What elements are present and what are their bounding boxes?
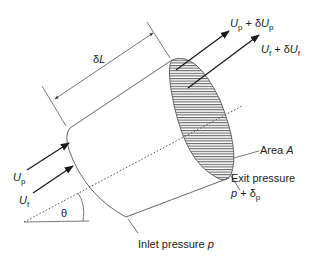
area-leader — [234, 151, 259, 158]
inlet-fluid-velocity-arrow — [33, 166, 73, 193]
inlet-fluid-velocity-label: Uf — [19, 194, 30, 209]
angle-label: θ — [61, 207, 67, 219]
exit-particle-velocity-label: Up + δUp — [230, 17, 274, 32]
length-label: δL — [93, 53, 105, 65]
exit-area-ellipse — [169, 58, 233, 179]
exit-fluid-velocity-label: Uf + δUf — [261, 43, 301, 58]
angle-indicator — [24, 193, 89, 222]
inlet-pressure-label: Inlet pressure p — [138, 238, 214, 250]
area-label: Area A — [260, 144, 294, 156]
inlet-particle-velocity-label: Up — [13, 171, 26, 186]
exit-fluid-velocity-arrow — [188, 35, 259, 88]
inlet-pressure-leader — [128, 219, 138, 233]
exit-pressure-value: p + δp — [230, 187, 261, 202]
inlet-particle-velocity-arrow — [27, 143, 69, 170]
exit-particle-velocity-arrow — [176, 31, 229, 70]
exit-pressure-title: Exit pressure — [231, 172, 295, 184]
pipe-element-diagram: δL Up + δUp Uf + δUf Up Uf θ Area A Exit… — [0, 0, 313, 265]
